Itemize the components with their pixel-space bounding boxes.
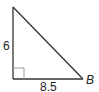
right-triangle-diagram: 6 8.5 B	[0, 0, 99, 92]
horizontal-leg-label: 8.5	[40, 80, 57, 92]
vertex-b-label: B	[86, 73, 94, 87]
vertical-leg-label: 6	[3, 39, 10, 53]
right-angle-marker	[13, 68, 24, 79]
